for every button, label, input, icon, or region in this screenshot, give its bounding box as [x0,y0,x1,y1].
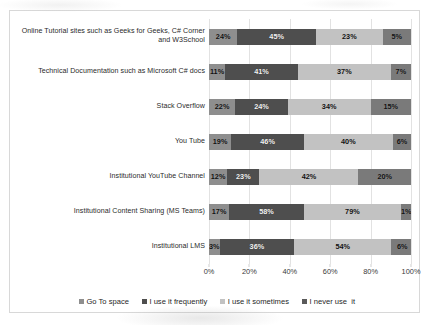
chart-legend: Go To spaceI use it frequentlyI use it s… [22,292,412,310]
bar-row: Institutional LMS3%36%54%6% [209,229,411,264]
category-label: Institutional Content Sharing (MS Teams) [19,207,205,217]
bar-segment[interactable]: 20% [358,169,411,185]
legend-item[interactable]: Go To space [79,297,129,306]
category-label: Online Tutorial sites such as Geeks for … [19,27,205,46]
stacked-bar[interactable]: 17%58%79%1% [209,204,411,220]
stacked-bar[interactable]: 22%24%34%15% [209,99,411,115]
stacked-bar[interactable]: 11%41%37%7% [209,64,411,80]
segment-value-label: 24% [216,32,231,41]
segment-value-label: 3% [209,242,220,251]
legend-item[interactable]: I never use it [302,297,355,306]
bar-segment[interactable]: 11% [209,64,225,80]
segment-value-label: 19% [213,137,228,146]
legend-swatch-icon [79,299,84,304]
segment-value-label: 54% [335,242,350,251]
bar-segment[interactable]: 23% [227,169,259,185]
x-tick-label: 80% [363,267,378,276]
bar-segment[interactable]: 6% [393,134,411,150]
bar-segment[interactable]: 15% [371,99,411,115]
bar-segment[interactable]: 24% [209,29,237,45]
segment-value-label: 15% [383,102,398,111]
segment-value-label: 45% [269,32,284,41]
bar-segment[interactable]: 1% [401,204,411,220]
bar-row: Technical Documentation such as Microsof… [209,54,411,89]
segment-value-label: 34% [322,102,337,111]
segment-value-label: 22% [215,102,230,111]
chart-frame: Online Tutorial sites such as Geeks for … [9,10,420,313]
bar-segment[interactable]: 5% [383,29,411,45]
segment-value-label: 12% [211,172,226,181]
segment-value-label: 6% [397,242,408,251]
bar-segment[interactable]: 34% [288,99,371,115]
segment-value-label: 42% [302,172,317,181]
stacked-bar[interactable]: 3%36%54%6% [209,239,411,255]
bar-segment[interactable]: 17% [209,204,229,220]
bar-segment[interactable]: 3% [209,239,220,255]
bar-segment[interactable]: 36% [220,239,295,255]
segment-value-label: 20% [377,172,392,181]
segment-value-label: 23% [342,32,357,41]
x-tick-label: 40% [282,267,297,276]
bar-row: Stack Overflow22%24%34%15% [209,89,411,124]
bar-segment[interactable]: 7% [391,64,411,80]
category-label: You Tube [19,137,205,147]
x-tick-label: 60% [323,267,338,276]
bar-segment[interactable]: 79% [304,204,401,220]
legend-swatch-icon [142,299,147,304]
segment-value-label: 23% [236,172,251,181]
legend-label: I never use it [309,297,355,306]
bar-segment[interactable]: 58% [229,204,304,220]
category-label: Technical Documentation such as Microsof… [19,67,205,77]
legend-swatch-icon [302,299,307,304]
bar-segment[interactable]: 41% [225,64,298,80]
segment-value-label: 37% [337,67,352,76]
bar-row: You Tube19%46%40%6% [209,124,411,159]
legend-label: Go To space [86,297,129,306]
bar-segment[interactable]: 54% [294,239,391,255]
legend-item[interactable]: I use it frequently [142,297,207,306]
plot-area: Online Tutorial sites such as Geeks for … [209,19,411,264]
bar-segment[interactable]: 22% [209,99,235,115]
bar-segment[interactable]: 23% [316,29,383,45]
x-tick-label: 0% [204,267,215,276]
stacked-bar[interactable]: 24%45%23%5% [209,29,411,45]
segment-value-label: 5% [392,32,403,41]
bar-segment[interactable]: 12% [209,169,227,185]
bar-row: Institutional Content Sharing (MS Teams)… [209,194,411,229]
bar-row: Online Tutorial sites such as Geeks for … [209,19,411,54]
category-label: Stack Overflow [19,102,205,112]
x-tick-label: 20% [242,267,257,276]
bar-segment[interactable]: 45% [237,29,316,45]
segment-value-label: 58% [259,207,274,216]
bar-segment[interactable]: 46% [231,134,304,150]
gridline-100 [411,19,412,264]
segment-value-label: 36% [250,242,265,251]
stacked-bar[interactable]: 12%23%42%20% [209,169,411,185]
bar-segment[interactable]: 24% [235,99,288,115]
category-label: Institutional LMS [19,242,205,252]
bar-segment[interactable]: 6% [391,239,411,255]
bar-segment[interactable]: 42% [259,169,358,185]
segment-value-label: 17% [212,207,227,216]
legend-label: I use it frequently [149,297,207,306]
segment-value-label: 1% [401,207,411,216]
bar-segment[interactable]: 37% [298,64,391,80]
segment-value-label: 79% [345,207,360,216]
x-axis-tick-labels: 0%20%40%60%80%100% [209,267,411,281]
segment-value-label: 6% [397,137,408,146]
legend-label: I use it sometimes [228,297,289,306]
segment-value-label: 7% [396,67,407,76]
segment-value-label: 46% [260,137,275,146]
segment-value-label: 40% [341,137,356,146]
segment-value-label: 41% [254,67,269,76]
legend-item[interactable]: I use it sometimes [220,297,289,306]
segment-value-label: 24% [254,102,269,111]
segment-value-label: 11% [210,67,224,76]
legend-swatch-icon [220,299,225,304]
bar-segment[interactable]: 40% [304,134,393,150]
bar-segment[interactable]: 19% [209,134,231,150]
category-label: Institutional YouTube Channel [19,172,205,182]
x-tick-label: 100% [402,267,421,276]
stacked-bar[interactable]: 19%46%40%6% [209,134,411,150]
bar-row: Institutional YouTube Channel12%23%42%20… [209,159,411,194]
